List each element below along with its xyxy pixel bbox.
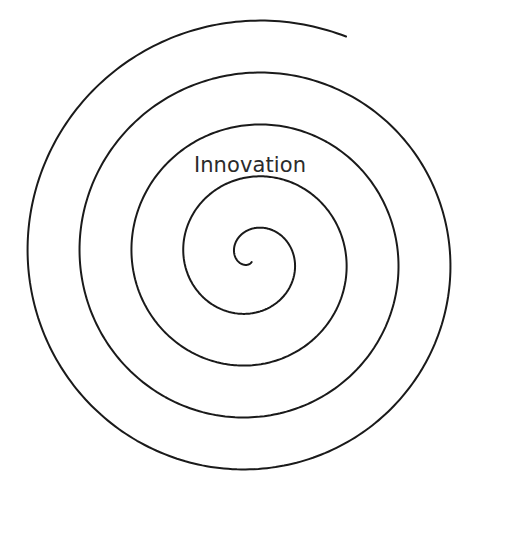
spiral-curve [28,21,451,470]
spiral-graphic [0,0,531,541]
spiral-center-label: Innovation [194,155,306,176]
diagram-canvas: Innovation [0,0,531,541]
